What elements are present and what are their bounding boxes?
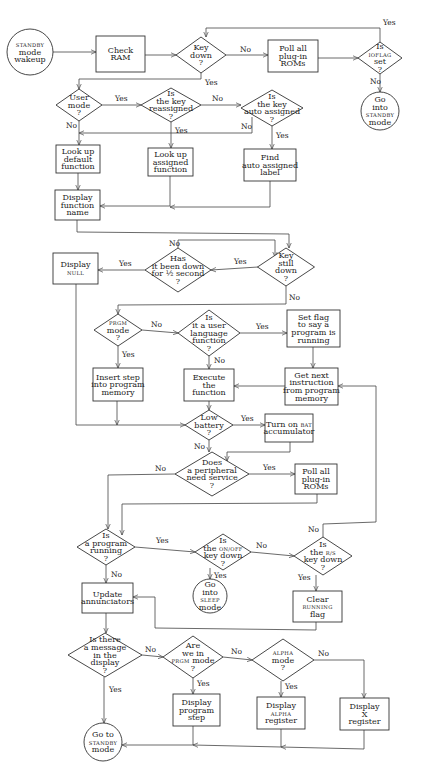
node-start: STANDBYmodewakeup [7,29,53,75]
node-text: memory [101,388,135,397]
node-text: memory [295,394,329,403]
edge-label-yes: Yes [121,350,135,359]
connector-prgm_mode_2-to-alpha_mode [223,657,252,660]
node-text: ? [210,481,214,490]
node-text: ? [284,274,288,283]
node-text: ? [221,559,225,568]
node-text: annunciators [81,597,134,606]
node-text: register [348,717,380,726]
node-prgm-mode-2: Arewe inPRGM mode? [163,636,223,678]
edge-label-yes: Yes [108,685,122,694]
node-text: step [188,713,205,722]
node-poll-roms-1: Poll allplug-inROMs [268,40,318,72]
node-poll-roms-2: Poll allplug-inROMs [295,464,337,494]
node-text: register [265,716,297,725]
node-text: mode [92,745,115,754]
connector-alpha_mode-to-display_x [314,660,364,698]
connector-prgm_mode-to-user_lang_fn [142,330,178,333]
node-text: flag [310,610,325,619]
edge-label-yes: Yes [275,131,289,140]
flowchart: STANDBYmodewakeupCheckRAMKeydown?Poll al… [0,0,427,782]
node-text: ? [116,333,120,342]
node-onoff-down: Isthe ON/OFFkey down? [195,534,251,570]
node-auto-assigned: Isthe keyauto assigned? [241,90,303,126]
flowchart-nodes: STANDBYmodewakeupCheckRAMKeydown?Poll al… [7,29,402,761]
node-display-step: Displayprogramstep [173,694,220,726]
node-display-fn-name: Displayfunctionname [55,190,100,220]
edge-label-no: No [241,122,253,131]
edge-label-no: No [308,525,320,534]
node-text: ? [207,428,211,437]
connector-lookup_assigned-to-display_fn_name [100,176,170,206]
node-text: function [61,162,95,171]
edge-label-no: No [240,45,252,54]
node-text: mode [369,118,392,127]
edge-label-yes: Yes [174,126,188,135]
edge-label-no: No [155,464,167,473]
node-bat-on: Turn on BATaccumulator [264,414,315,442]
node-key-still-down: Keystilldown? [258,248,315,286]
node-text: ROMs [281,59,306,68]
edge-label-no: No [256,541,268,550]
edge-label-no: No [111,570,123,579]
node-text: ? [270,115,274,124]
node-text: Clear [306,595,328,604]
edge-label-no: No [289,293,301,302]
node-text: name [66,208,89,217]
edge-label-no: No [169,239,181,248]
node-key-reassigned: Isthe keyreassigned? [141,88,201,122]
edge-label-no: No [212,94,224,103]
edge-label-no: No [214,356,226,365]
node-check-ram: CheckRAM [96,36,145,72]
node-text: ? [77,108,81,117]
node-text: Is [219,536,226,545]
edge-label-no: No [145,645,157,654]
node-text: Display [266,701,297,710]
edge-label-yes: Yes [284,682,298,691]
node-text: Is [376,42,383,51]
connector-half_second-to-key_still_down [178,240,275,257]
node-execute-fn: Executethefunction [184,369,234,401]
node-text: mode [199,603,222,612]
node-peripheral: Doesa peripheralneed service? [175,452,249,496]
node-prgm-mode: PRGMmode? [94,314,142,346]
node-update-ann: Updateannunciators [81,583,134,613]
connector-key_still_down-to-half_second [211,267,258,270]
node-text: running [297,336,329,345]
node-text: NULL [67,270,84,276]
node-get-next: Get nextinstructionfrom programmemory [283,368,340,405]
edge-label-no: No [151,320,163,329]
node-alpha-mode: ALPHAmode? [252,639,314,681]
node-message-display: Is therea messagein thedisplay? [68,633,142,677]
node-set-flag: Set flagto say aprogram isrunning [287,310,340,347]
node-half-second: Hasit been downfor ½ second? [145,248,211,292]
node-ioflag: IsIOFLAGset? [358,42,402,74]
node-lookup-default: Look updefaultfunction [56,145,100,173]
node-text: ? [207,344,211,353]
connector-key_down-to-user_mode [79,73,201,89]
edge-label-no: No [66,121,78,130]
edge-label-yes: Yes [155,536,169,545]
edge-label-yes: Yes [118,259,132,268]
node-text: function [154,165,188,174]
node-clear-running: ClearRUNNINGflag [293,591,342,622]
node-text: ? [199,58,203,67]
node-text: ? [378,65,382,74]
node-text: ? [176,277,180,286]
edge-label-yes: Yes [240,414,254,423]
node-user-lang-fn: Isit a userlanguagefunction? [178,310,240,356]
node-text: ROMs [304,482,329,491]
node-text: Display [60,260,91,269]
node-go-sleep: GointoSLEEPmode [193,579,227,613]
edge-label-yes: Yes [213,571,227,580]
edge-label-yes: Yes [255,322,269,331]
edge-label-no: No [318,649,330,658]
node-go-standby-1: GointoSTANDBYmode [361,92,399,130]
connector-poll_roms_2-to-prog_running [122,494,317,535]
node-lookup-assigned: Look upassignedfunction [148,148,193,176]
node-go-standby-2: Go toSTANDBYmode [84,723,122,761]
node-text: wakeup [14,55,45,64]
node-text: RAM [111,53,131,62]
node-text: ? [321,563,325,572]
connector-bat_on-to-peripheral [227,442,290,461]
